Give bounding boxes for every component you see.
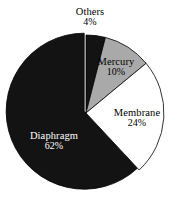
pie-chart: Others 4% Mercury 10% Membrane 24% Diaph… [0,0,179,211]
pie-chart-graphic [0,0,179,211]
